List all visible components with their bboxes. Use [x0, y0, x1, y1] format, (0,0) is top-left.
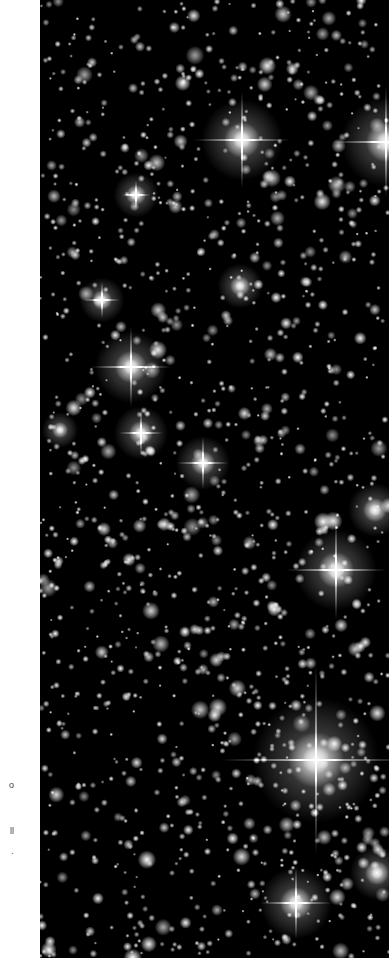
- star-field-canvas: [40, 0, 389, 958]
- clipped-text-fragment: ll: [0, 826, 14, 836]
- page-margin: o ll ·: [0, 0, 40, 958]
- star-field-image: [40, 0, 389, 958]
- clipped-text-fragment: o: [0, 780, 14, 790]
- clipped-text-fragment: ·: [0, 848, 14, 858]
